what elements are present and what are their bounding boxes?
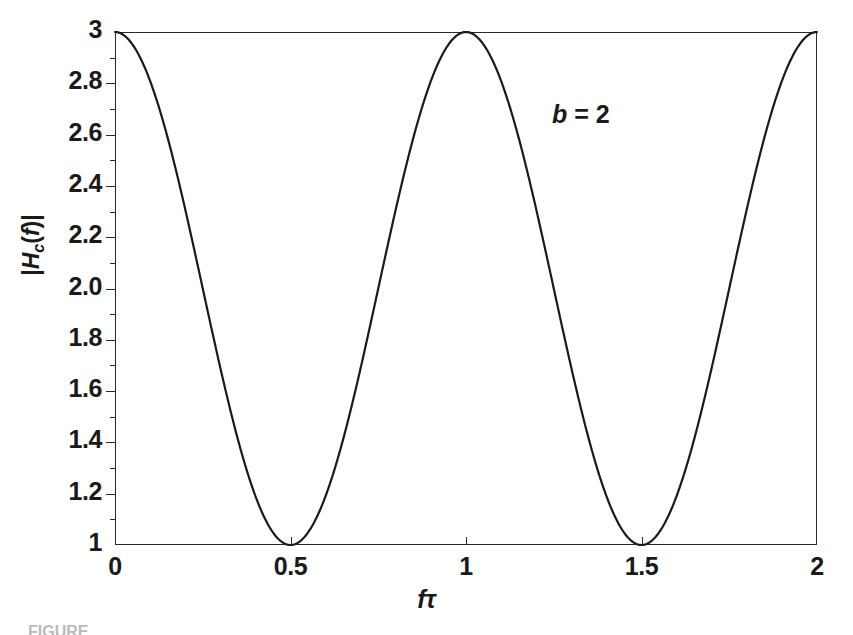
annotation-value: = 2 [567,100,609,128]
y-tick-label: 1.8 [68,323,102,352]
figure-caption: FIGURE [28,624,828,635]
y-minor-tick-mark [110,468,115,469]
y-tick-label: 1.2 [68,477,102,506]
y-axis-label-H: H [18,253,44,270]
y-minor-tick-mark [110,365,115,366]
y-minor-tick-mark [110,519,115,520]
y-tick-mark [106,340,115,341]
y-tick-mark [106,83,115,84]
y-axis-label: |Hc(f)| [18,242,47,276]
y-tick-label: 1.6 [68,374,102,403]
y-tick-mark [106,237,115,238]
y-minor-tick-mark [110,212,115,213]
x-axis-label: fτ [0,585,853,614]
y-minor-tick-mark [110,160,115,161]
y-tick-label: 2.8 [68,66,102,95]
x-tick-mark [291,537,292,545]
x-tick-mark [466,537,467,545]
y-tick-label: 1.4 [68,425,102,454]
x-tick-mark [642,537,643,545]
y-minor-tick-mark [110,58,115,59]
y-tick-mark [106,289,115,290]
y-tick-mark [106,494,115,495]
y-tick-mark [106,442,115,443]
figure-container: 11.21.41.61.82.02.22.42.62.83 00.511.52 … [0,0,853,635]
y-axis-label-paren-open: ( [18,236,44,244]
y-axis-label-bar-open: | [18,269,44,275]
series-line-hc [115,32,817,545]
y-axis-label-bar-close: | [18,214,44,220]
y-tick-label: 2.6 [68,118,102,147]
x-tick-label: 1 [421,552,511,581]
chart-curve-svg [115,32,817,545]
y-tick-label: 2.2 [68,220,102,249]
y-axis-label-paren-close: ) [18,221,44,229]
y-tick-label: 2.4 [68,169,102,198]
annotation-variable: b [552,100,567,128]
x-tick-label: 0 [70,552,160,581]
x-tick-label: 0.5 [246,552,336,581]
x-tick-label: 1.5 [597,552,687,581]
y-tick-label: 2.0 [68,272,102,301]
y-tick-label: 3 [88,15,102,44]
y-minor-tick-mark [110,109,115,110]
y-minor-tick-mark [110,263,115,264]
x-tick-label: 2 [772,552,853,581]
annotation-b-equals-2: b = 2 [552,100,610,129]
y-tick-mark [106,135,115,136]
y-axis-label-subscript: c [30,244,47,253]
y-tick-mark [106,391,115,392]
y-minor-tick-mark [110,417,115,418]
y-axis-label-f: f [18,228,44,236]
y-minor-tick-mark [110,314,115,315]
y-tick-mark [106,186,115,187]
